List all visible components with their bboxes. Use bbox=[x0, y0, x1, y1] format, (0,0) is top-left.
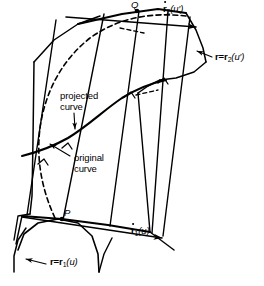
tangent-upper-argument: (u′) bbox=[170, 3, 183, 14]
original-curve-label: original curve bbox=[74, 152, 104, 174]
projected-curve-label-line2: curve bbox=[60, 101, 83, 112]
tangent-upper-label: r2(u′) bbox=[163, 4, 183, 15]
projected-curve-label-line1: projected bbox=[60, 90, 98, 101]
curve-upper-label: r=r2(u′) bbox=[215, 52, 244, 63]
ruled-surface-diagram bbox=[0, 0, 264, 286]
tangent-lower-subscript: 1 bbox=[135, 230, 139, 237]
curve-upper-argument: (u′) bbox=[231, 51, 244, 62]
tangent-upper-subscript: 2 bbox=[167, 8, 171, 15]
curve-upper-subscript: 2 bbox=[228, 56, 232, 63]
projected-curve-label: projected curve bbox=[60, 90, 98, 112]
tangent-lower-argument: (u) bbox=[138, 225, 149, 236]
curve-lower-argument: (u) bbox=[66, 256, 77, 267]
point-q-label: Q bbox=[131, 0, 138, 11]
point-p-label: P bbox=[64, 208, 70, 219]
curve-lower-label: r=r1(u) bbox=[50, 257, 78, 268]
curve-lower-subscript: 1 bbox=[63, 261, 67, 268]
original-curve-label-line1: original bbox=[74, 152, 104, 163]
tangent-lower-label: r1(u) bbox=[131, 226, 150, 237]
original-curve-label-line2: curve bbox=[74, 163, 97, 174]
curve-lower-prefix: r= bbox=[50, 256, 59, 267]
curve-upper-prefix: r= bbox=[215, 51, 224, 62]
